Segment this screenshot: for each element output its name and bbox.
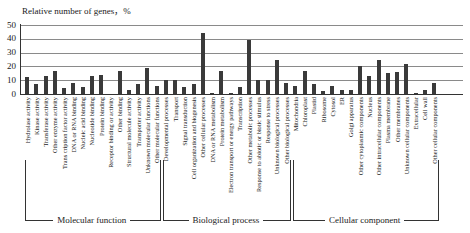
- bar: [145, 68, 149, 94]
- x-tick-label: Other binding: [116, 97, 123, 132]
- gridline: [20, 66, 463, 67]
- x-tick-label: Extracellular: [412, 97, 419, 130]
- group-bracket: [293, 160, 439, 221]
- x-tick-label: Transporter activity: [135, 97, 142, 147]
- y-axis-line: [20, 24, 21, 94]
- x-tick-label: Nucleotide binding: [88, 97, 95, 145]
- bar: [256, 80, 260, 94]
- y-tick-label: 50: [0, 21, 16, 30]
- bar: [247, 40, 251, 94]
- go-annotation-bar-chart: Relative number of genes，% 01020304050 H…: [0, 0, 470, 233]
- bar: [349, 90, 353, 94]
- bar: [275, 60, 279, 95]
- group-label: Molecular function: [53, 215, 130, 225]
- x-tick-label: DNA or RNA binding: [70, 97, 77, 152]
- bar: [414, 93, 418, 94]
- bar: [312, 84, 316, 94]
- bar: [219, 71, 223, 94]
- gridline: [20, 94, 463, 95]
- bar: [44, 76, 48, 94]
- x-tick-label: Ribosome: [320, 97, 327, 123]
- x-tick-label: ER: [338, 97, 345, 105]
- x-tick-label: Transport: [172, 97, 179, 121]
- gridline: [20, 53, 463, 54]
- bar: [303, 71, 307, 94]
- x-tick-label: Structural molecule activity: [125, 97, 132, 167]
- bar: [330, 86, 334, 94]
- x-tick-label: Other cellular components: [431, 97, 438, 164]
- bar: [164, 80, 168, 94]
- bar: [423, 90, 427, 94]
- x-tick-label: Plastid: [310, 97, 317, 114]
- x-tick-label: Other biological processes: [283, 97, 290, 164]
- y-tick-label: 10: [0, 76, 16, 85]
- bar: [34, 84, 38, 94]
- bar: [62, 88, 66, 94]
- x-tick-label: Cell wall: [421, 97, 428, 120]
- x-tick-label: Transcription: [236, 97, 243, 131]
- group-label: Cellular component: [325, 215, 404, 225]
- bar: [182, 87, 186, 94]
- group-bracket: [163, 160, 290, 221]
- gridline: [20, 39, 463, 40]
- x-tick-label: Nucleus: [366, 97, 373, 118]
- x-tick-label: Transferase activity: [42, 97, 49, 147]
- bar: [377, 60, 381, 95]
- bar: [395, 72, 399, 94]
- x-tick-label: Other metabolic processes: [246, 97, 253, 163]
- bar: [71, 83, 75, 94]
- bar: [229, 93, 233, 94]
- group-label: Biological process: [189, 215, 264, 225]
- y-tick-label: 0: [0, 90, 16, 99]
- bar: [81, 87, 85, 94]
- bar: [432, 83, 436, 94]
- bar: [284, 83, 288, 94]
- x-tick-label: Chloroplast: [301, 97, 308, 126]
- bar: [99, 75, 103, 94]
- bar: [321, 91, 325, 94]
- bar: [90, 76, 94, 94]
- bar: [404, 64, 408, 94]
- bar: [367, 76, 371, 94]
- bar: [53, 71, 57, 94]
- y-axis-title: Relative number of genes，%: [22, 4, 131, 17]
- bar: [192, 84, 196, 94]
- bar: [386, 73, 390, 94]
- bar: [136, 84, 140, 94]
- x-tick-label: Developmental processes: [162, 97, 169, 161]
- x-tick-label: Mitochondria: [292, 97, 299, 131]
- x-tick-label: Receptor binding or activity: [107, 97, 114, 168]
- x-tick-label: Nucleic acid binding: [79, 97, 86, 149]
- x-tick-label: Other cellular processes: [199, 97, 206, 158]
- x-tick-label: Kinase activity: [33, 97, 40, 135]
- x-tick-label: DNA or RNA metabolism: [209, 97, 216, 163]
- bar: [155, 86, 159, 94]
- x-tick-label: Trans cription factor activity: [61, 97, 68, 169]
- bar: [238, 87, 242, 94]
- bar: [210, 93, 214, 94]
- bar: [266, 80, 270, 94]
- x-tick-label: Hydrolase activity: [24, 97, 31, 143]
- bar: [173, 80, 177, 94]
- bar: [358, 66, 362, 94]
- x-tick-label: Protein binding: [98, 97, 105, 136]
- group-bracket: [25, 160, 162, 221]
- x-tick-label: Other membranes: [394, 97, 401, 142]
- bar: [25, 77, 29, 94]
- x-tick-label: Other molecular functions: [153, 97, 160, 163]
- y-tick-label: 30: [0, 48, 16, 57]
- y-tick-label: 20: [0, 62, 16, 71]
- x-tick-label: Golgi apparatus: [347, 97, 354, 137]
- x-tick-label: Cytosol: [329, 97, 336, 117]
- x-tick-label: Response to stress: [264, 97, 271, 143]
- bar: [293, 86, 297, 94]
- gridline: [20, 25, 463, 26]
- bar: [127, 90, 131, 94]
- bar: [118, 71, 122, 94]
- x-tick-label: Plasma membrane: [384, 97, 391, 143]
- bar: [201, 33, 205, 94]
- y-tick-label: 40: [0, 34, 16, 43]
- x-tick-label: Signal transduction: [181, 97, 188, 146]
- bar: [340, 90, 344, 94]
- x-tick-label: Protein metabolism: [218, 97, 225, 146]
